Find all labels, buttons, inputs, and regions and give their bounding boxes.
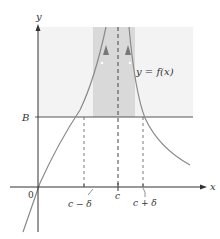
delta-band <box>93 27 135 117</box>
leader-c-plus-delta <box>143 188 145 197</box>
y-axis-label: y <box>35 11 42 22</box>
x-axis-arrow-icon <box>200 185 207 190</box>
c-label: c <box>115 191 120 201</box>
x-axis-label: x <box>210 181 216 192</box>
curve-marker-right <box>129 62 132 65</box>
c-minus-delta-label: c − δ <box>68 199 92 209</box>
c-plus-delta-label: c + δ <box>133 198 157 208</box>
leader-c-minus-delta <box>88 189 93 195</box>
curve-marker-left <box>101 62 104 65</box>
function-label: y = f(x) <box>135 66 174 77</box>
b-label: B <box>21 112 29 123</box>
origin-label: 0 <box>28 190 34 200</box>
limit-definition-diagram: y x B 0 c c − δ c + δ y = f(x) <box>0 0 220 239</box>
